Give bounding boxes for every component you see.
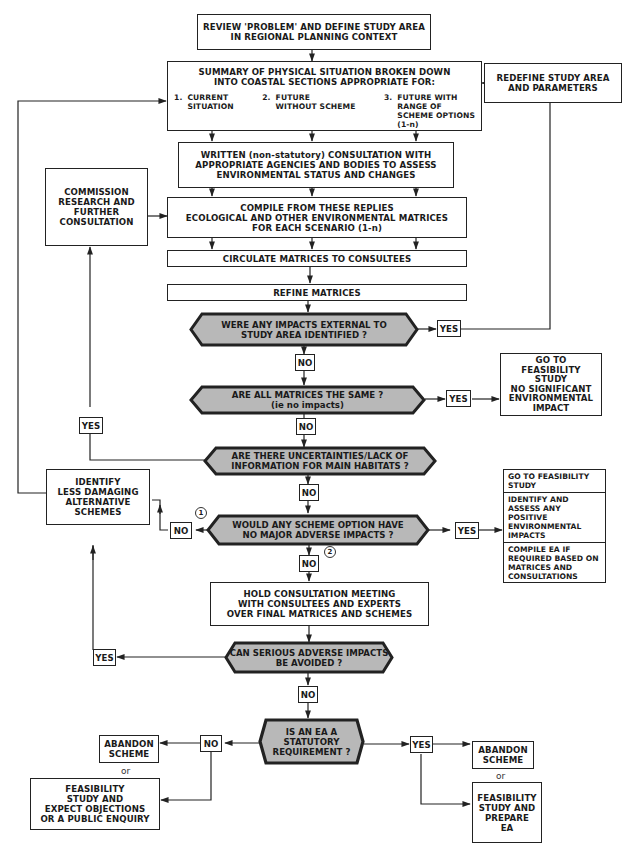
identify-alternative-schemes-box: IDENTIFY LESS DAMAGING ALTERNATIVE SCHEM…	[46, 469, 150, 525]
yes-label-no-major: YES	[455, 522, 479, 539]
abandon-scheme-left-box: ABANDON SCHEME	[99, 735, 159, 763]
physical-situation-summary-box: SUMMARY OF PHYSICAL SITUATION BROKEN DOW…	[167, 61, 482, 131]
decision-no-major-adverse: WOULD ANY SCHEME OPTION HAVENO MAJOR ADV…	[207, 515, 429, 545]
no-label-uncertain: NO	[299, 484, 319, 501]
decision-can-avoid: CAN SERIOUS ADVERSE IMPACTSBE AVOIDED ?	[225, 642, 393, 673]
no-label-statutory: NO	[200, 735, 222, 752]
yes-label-external: YES	[437, 320, 461, 337]
outcome-positive-impacts: IDENTIFY AND ASSESS ANY POSITIVE ENVIRON…	[504, 493, 605, 543]
review-problem-box: REVIEW 'PROBLEM' AND DEFINE STUDY AREA I…	[197, 14, 431, 50]
redefine-study-area-box: REDEFINE STUDY AREA AND PARAMETERS	[484, 63, 622, 103]
decision-uncertainties: ARE THERE UNCERTAINTIES/LACK OFINFORMATI…	[204, 447, 436, 475]
marker-2: 2	[324, 546, 336, 558]
no-label-to-meeting: NO	[299, 555, 319, 572]
go-feasibility-no-impact-box: GO TO FEASIBILITY STUDY NO SIGNIFICANT E…	[500, 353, 602, 416]
feasibility-prepare-ea-box: FEASIBILITY STUDY AND PREPARE EA	[472, 782, 542, 843]
or-label-right: or	[496, 771, 505, 781]
yes-label-same: YES	[446, 390, 471, 407]
outcome-compile-ea: COMPILE EA IF REQUIRED BASED ON MATRICES…	[504, 543, 605, 583]
commission-research-box: COMMISSION RESEARCH AND FURTHER CONSULTA…	[45, 168, 148, 246]
yes-label-avoid: YES	[93, 649, 116, 666]
yes-label-statutory: YES	[410, 736, 433, 753]
hold-consultation-meeting-box: HOLD CONSULTATION MEETING WITH CONSULTEE…	[210, 582, 429, 626]
outcome-go-feasibility: GO TO FEASIBILITY STUDY	[504, 470, 605, 493]
no-label-no-major: NO	[170, 522, 192, 539]
decision-external-impacts: WERE ANY IMPACTS EXTERNAL TOSTUDY AREA I…	[190, 313, 418, 346]
abandon-scheme-right-box: ABANDON SCHEME	[472, 741, 534, 769]
scenario-option-future-without: 2. FUTUREWITHOUT SCHEME	[262, 93, 355, 129]
feasibility-expect-objections-box: FEASIBILITY STUDY AND EXPECT OBJECTIONS …	[30, 778, 160, 830]
decision-matrices-same: ARE ALL MATRICES THE SAME ?(ie no impact…	[190, 386, 425, 414]
compile-matrices-box: COMPILE FROM THESE REPLIES ECOLOGICAL AN…	[167, 197, 467, 238]
no-label-same: NO	[296, 418, 316, 435]
refine-matrices-box: REFINE MATRICES	[167, 284, 467, 301]
yes-label-uncertain: YES	[79, 417, 103, 434]
written-consultation-box: WRITTEN (non-statutory) CONSULTATION WIT…	[178, 142, 454, 188]
no-label-avoid: NO	[298, 686, 318, 703]
feasibility-outcome-stack: GO TO FEASIBILITY STUDY IDENTIFY AND ASS…	[503, 469, 606, 583]
marker-1: 1	[195, 507, 207, 519]
scenario-options: 1. CURRENTSITUATION 2. FUTUREWITHOUT SCH…	[168, 93, 481, 129]
scenario-option-future-with: 3. FUTURE WITHRANGE OFSCHEME OPTIONS(1-n…	[384, 93, 475, 129]
no-label-external: NO	[295, 354, 315, 371]
decision-statutory-ea: IS AN EA ASTATUTORYREQUIREMENT ?	[259, 719, 364, 764]
circulate-matrices-box: CIRCULATE MATRICES TO CONSULTEES	[167, 250, 467, 267]
scenario-option-current: 1. CURRENTSITUATION	[174, 93, 234, 129]
or-label-left: or	[121, 766, 130, 776]
